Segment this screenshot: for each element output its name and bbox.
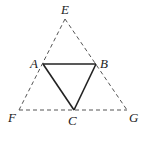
inner-triangle-abc	[43, 64, 96, 110]
segment-ac	[43, 64, 74, 110]
label-c: C	[68, 113, 77, 128]
segment-bc	[74, 64, 96, 110]
label-g: G	[129, 110, 139, 125]
label-f: F	[7, 110, 17, 125]
label-e: E	[60, 2, 69, 17]
label-b: B	[100, 56, 108, 71]
geometry-diagram: E A B F C G	[0, 0, 149, 144]
label-a: A	[29, 56, 38, 71]
